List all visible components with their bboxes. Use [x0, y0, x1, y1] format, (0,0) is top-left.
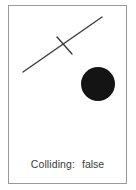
long-segment	[23, 17, 102, 72]
filled-circle	[81, 67, 115, 101]
scene-canvas[interactable]	[9, 6, 126, 154]
scene-panel: Colliding: false	[8, 5, 127, 184]
status-bar: Colliding: false	[9, 155, 126, 173]
colliding-value: false	[82, 158, 104, 170]
colliding-label: Colliding:	[31, 158, 75, 170]
scene-svg	[9, 6, 126, 154]
app-root: Colliding: false	[0, 0, 136, 190]
